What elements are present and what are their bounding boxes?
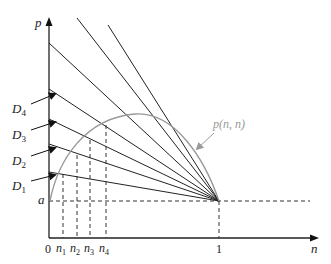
tick-n3: n3 <box>84 241 94 257</box>
curve-p-n-n <box>50 114 219 201</box>
x-tick-one: 1 <box>216 242 222 256</box>
arrow-d2-icon <box>31 148 55 156</box>
arrow-d3-icon <box>31 122 55 130</box>
origin-label: 0 <box>45 242 51 256</box>
label-d2: D2 <box>11 153 26 170</box>
straight-lines <box>49 18 219 201</box>
label-d1: D1 <box>11 178 26 195</box>
curve-label: p(n, n) <box>212 117 245 131</box>
arrow-d1-icon <box>31 175 55 181</box>
label-d3: D3 <box>11 127 26 144</box>
y-axis-arrow-icon <box>46 17 53 26</box>
label-d4: D4 <box>11 101 26 118</box>
line-d4 <box>49 89 219 201</box>
line-d2 <box>49 144 219 201</box>
tick-n1: n1 <box>56 241 66 257</box>
axes <box>46 17 320 242</box>
curve-label-arrow-icon <box>197 133 214 149</box>
arrow-d4-icon <box>31 94 55 104</box>
n-tick-labels: n1 n2 n3 n4 <box>56 241 109 257</box>
line-top-1 <box>77 18 219 201</box>
tick-n2: n2 <box>70 241 80 257</box>
x-axis-label: n <box>311 241 318 256</box>
line-d1 <box>49 172 219 201</box>
y-axis-label: p <box>34 15 42 30</box>
diagram: p(n, n) D4 D3 D2 D1 p n a 0 1 n1 n2 <box>0 0 331 264</box>
a-label: a <box>38 192 45 207</box>
tick-n4: n4 <box>99 241 109 257</box>
